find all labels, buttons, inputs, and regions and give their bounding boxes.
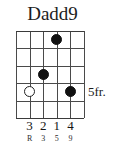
fret-line-3 bbox=[16, 83, 84, 84]
fret-line-2 bbox=[16, 66, 84, 67]
chord-name-title: Dadd9 bbox=[0, 2, 105, 26]
fret-dot-filled bbox=[38, 69, 49, 80]
interval-degree-string-5: 9 bbox=[64, 133, 78, 145]
fret-line-0 bbox=[16, 31, 84, 32]
fret-line-1 bbox=[16, 48, 84, 49]
fretboard-grid bbox=[16, 31, 84, 118]
finger-number-string-4: 1 bbox=[50, 119, 64, 133]
finger-number-row: 3214 bbox=[16, 119, 84, 133]
interval-degree-string-4: 5 bbox=[50, 133, 64, 145]
fret-position-label: 5fr. bbox=[88, 84, 106, 100]
string-line-2 bbox=[30, 31, 31, 118]
interval-degree-string-2: R bbox=[23, 133, 37, 145]
string-line-5 bbox=[70, 31, 71, 118]
interval-degree-string-3: 3 bbox=[36, 133, 50, 145]
finger-number-string-3: 2 bbox=[36, 119, 50, 133]
string-line-6 bbox=[84, 31, 85, 118]
fret-line-4 bbox=[16, 101, 84, 102]
finger-number-string-2: 3 bbox=[23, 119, 37, 133]
string-line-1 bbox=[16, 31, 17, 118]
finger-number-string-5: 4 bbox=[64, 119, 78, 133]
chord-diagram-card: Dadd9 5fr. 3214 R359 bbox=[0, 0, 120, 157]
interval-degree-row: R359 bbox=[16, 133, 84, 147]
